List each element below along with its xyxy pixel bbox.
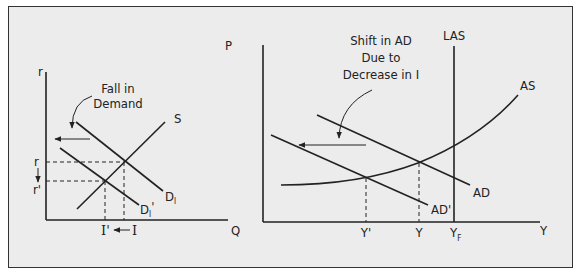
invest-new-label: I'	[101, 223, 110, 238]
supply-label: S	[174, 111, 181, 126]
as-curve	[281, 95, 518, 185]
demand-curve-shifted	[60, 148, 139, 205]
demand-shifted-label: DI'	[140, 199, 154, 219]
right-panel-ad-as: P Y Shift in AD Due to Decrease in I LAS…	[225, 28, 548, 243]
las-label: LAS	[443, 28, 465, 43]
invest-label: I	[132, 223, 137, 238]
as-label: AS	[520, 78, 535, 93]
left-panel-investment-market: r Q Fall in Demand S DI DI' r r' I' I	[33, 64, 240, 238]
curved-arrow-icon	[72, 96, 92, 128]
right-x-axis-label: Y	[539, 223, 548, 238]
rate-new-label: r'	[33, 182, 41, 197]
left-y-axis-label: r	[38, 64, 43, 79]
demand-label: DI	[165, 189, 176, 206]
fall-in-demand-line2: Demand	[93, 96, 143, 111]
shift-ad-line3: Decrease in I	[343, 67, 419, 82]
shift-ad-line1: Shift in AD	[350, 33, 412, 48]
output-label: Y	[414, 225, 423, 240]
economics-diagram: r Q Fall in Demand S DI DI' r r' I' I	[0, 0, 580, 278]
left-x-axis-label: Q	[231, 223, 240, 238]
ad-shifted-label: AD'	[431, 202, 451, 217]
shift-ad-line2: Due to	[361, 50, 400, 65]
full-output-label: YF	[449, 225, 461, 243]
rate-label: r	[34, 154, 39, 169]
output-new-label: Y'	[360, 225, 371, 240]
supply-curve	[77, 122, 165, 209]
ad-label: AD	[473, 185, 490, 200]
right-y-axis-label: P	[225, 38, 232, 53]
curved-arrow-icon	[339, 90, 372, 138]
fall-in-demand-line1: Fall in	[101, 81, 135, 96]
